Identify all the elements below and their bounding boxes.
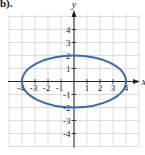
- y-tick-label: 4: [66, 25, 71, 35]
- axes: [8, 10, 140, 148]
- y-axis-arrow-icon: [72, 10, 77, 17]
- x-axis-label: x: [141, 76, 145, 87]
- coordinate-plane: -4-3-2-11234-4-3-2-11234 xy: [0, 0, 145, 155]
- y-axis-label: y: [71, 0, 77, 10]
- part-label: b).: [0, 0, 13, 9]
- x-tick-label: 1: [85, 83, 90, 93]
- x-tick-label: -3: [30, 83, 38, 93]
- y-tick-label: -1: [63, 90, 71, 100]
- y-tick-label: -3: [63, 116, 71, 126]
- axis-labels: xy: [71, 0, 145, 87]
- x-tick-label: 2: [98, 83, 103, 93]
- x-tick-label: -2: [43, 83, 51, 93]
- ellipse-graph: b). -4-3-2-11234-4-3-2-11234 xy: [0, 0, 145, 155]
- x-tick-label: 3: [111, 83, 116, 93]
- y-tick-label: -4: [63, 129, 71, 139]
- y-tick-label: 1: [66, 64, 71, 74]
- y-tick-label: 3: [66, 38, 71, 48]
